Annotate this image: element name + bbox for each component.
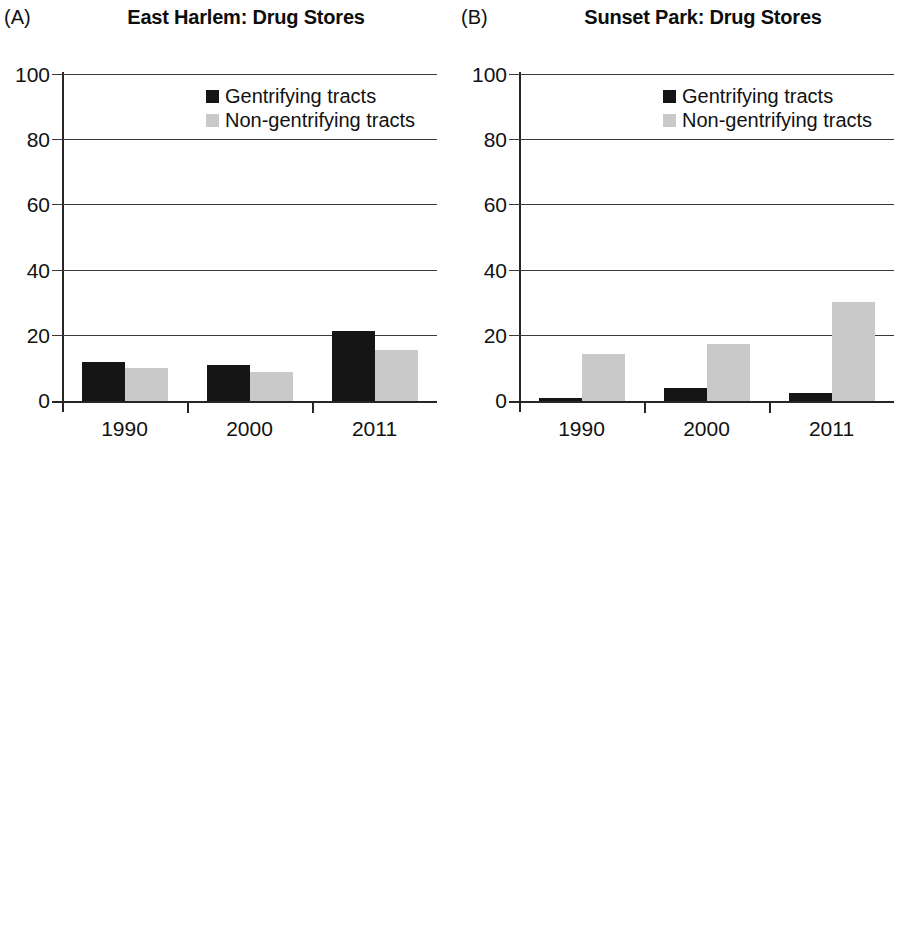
legend-item-gentrifying: Gentrifying tracts [204,85,417,108]
x-axis-category-label: 2000 [226,417,273,441]
y-axis-tick-label: 60 [27,193,50,217]
x-axis-category-label: 1990 [101,417,148,441]
panel-b-x-axis [509,401,894,403]
y-axis-tick-label: 80 [484,128,507,152]
y-axis-tick-label: 40 [27,259,50,283]
legend-swatch-non-gentrifying-icon [663,114,676,127]
bar-gentrifying [207,365,250,401]
panel-b-plot-area: Gentrifying tracts Non-gentrifying tract… [519,75,894,403]
y-axis-tick-label: 20 [484,324,507,348]
y-axis-tick-label: 100 [472,63,507,87]
gridline [509,204,894,205]
legend-item-non-gentrifying: Non-gentrifying tracts [661,109,874,132]
bar-gentrifying [82,362,125,401]
bar-non-gentrifying [832,302,875,401]
gridline [509,270,894,271]
panel-b-tag: (B) [461,6,488,29]
panel-b: (B) Sunset Park: Drug Stores Gentrifying… [457,0,914,470]
panel-a-plot-area: Gentrifying tracts Non-gentrifying tract… [62,75,437,403]
panel-a-x-axis [52,401,437,403]
bar-gentrifying [664,388,707,401]
legend-swatch-gentrifying-icon [206,90,219,103]
panel-b-title: Sunset Park: Drug Stores [513,6,893,29]
legend-item-non-gentrifying: Non-gentrifying tracts [204,109,417,132]
bar-gentrifying [539,398,582,401]
y-axis-tick-label: 0 [38,389,50,413]
y-axis-tick-label: 60 [484,193,507,217]
gridline [52,204,437,205]
panel-d: (D) Sunset Park: Grocery Stores Gentrify… [457,470,914,941]
x-axis-tick [187,403,189,413]
panel-c: (C) East Harlem: Grocery Stores Gentrify… [0,470,457,941]
legend-label-non-gentrifying: Non-gentrifying tracts [225,109,415,132]
legend-label-gentrifying: Gentrifying tracts [225,85,376,108]
bar-non-gentrifying [375,350,418,401]
legend-item-gentrifying: Gentrifying tracts [661,85,874,108]
panel-b-legend: Gentrifying tracts Non-gentrifying tract… [661,85,874,132]
y-axis-tick-label: 0 [495,389,507,413]
y-axis-tick-label: 40 [484,259,507,283]
x-axis-tick [312,403,314,413]
y-axis-tick-label: 80 [27,128,50,152]
panel-a-y-axis [62,72,64,412]
bar-non-gentrifying [582,354,625,401]
panel-a-legend: Gentrifying tracts Non-gentrifying tract… [204,85,417,132]
bar-non-gentrifying [707,344,750,401]
gridline [52,74,437,75]
legend-swatch-gentrifying-icon [663,90,676,103]
legend-swatch-non-gentrifying-icon [206,114,219,127]
legend-label-non-gentrifying: Non-gentrifying tracts [682,109,872,132]
x-axis-category-label: 2011 [352,417,397,441]
gridline [52,270,437,271]
y-axis-tick-label: 20 [27,324,50,348]
x-axis-tick [769,403,771,413]
x-axis-category-label: 1990 [558,417,605,441]
bar-gentrifying [789,393,832,401]
bar-gentrifying [332,331,375,401]
panel-a-tag: (A) [4,6,31,29]
gridline [52,139,437,140]
y-axis-tick-label: 100 [15,63,50,87]
bar-non-gentrifying [250,372,293,401]
panel-a: (A) East Harlem: Drug Stores Gentrifying… [0,0,457,470]
panel-a-title: East Harlem: Drug Stores [56,6,436,29]
panel-b-y-axis [519,72,521,412]
bar-non-gentrifying [125,368,168,401]
x-axis-category-label: 2000 [683,417,730,441]
legend-label-gentrifying: Gentrifying tracts [682,85,833,108]
gridline [52,335,437,336]
gridline [509,139,894,140]
gridline [509,74,894,75]
figure-panel-grid: (A) East Harlem: Drug Stores Gentrifying… [0,0,914,941]
x-axis-category-label: 2011 [809,417,854,441]
x-axis-tick [644,403,646,413]
